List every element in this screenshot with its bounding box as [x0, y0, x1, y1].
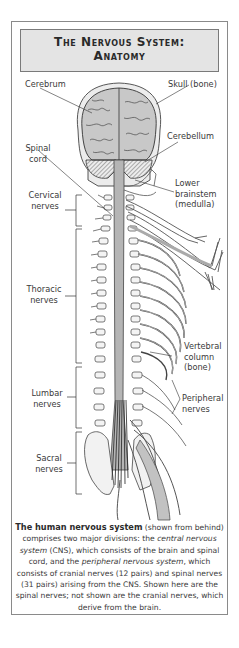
label-spinal-cord: Spinal cord — [23, 143, 53, 164]
label-peripheral-nerves: Peripheral nerves — [182, 393, 223, 414]
brachial-plexus — [126, 200, 223, 290]
label-sacral-nerves: Sacral nerves — [32, 453, 66, 474]
label-thoracic-nerves: Thoracic nerves — [22, 284, 66, 305]
label-vertebral-column: Vertebral column (bone) — [184, 341, 221, 373]
label-lower-brainstem: Lower brainstem (medulla) — [175, 178, 217, 210]
ribs — [138, 240, 186, 380]
label-cervical-nerves: Cervical nerves — [24, 190, 66, 211]
section-brackets — [65, 195, 82, 494]
caption-lead: The human nervous system — [15, 522, 142, 532]
label-cerebellum: Cerebellum — [167, 131, 214, 142]
label-lumbar-nerves: Lumbar nerves — [27, 388, 67, 409]
figure-caption: The human nervous system (shown from beh… — [14, 522, 225, 613]
spinal-cord — [110, 160, 128, 470]
pelvis — [85, 432, 114, 495]
label-skull: Skull (bone) — [168, 79, 217, 90]
label-cerebrum: Cerebrum — [25, 79, 66, 90]
